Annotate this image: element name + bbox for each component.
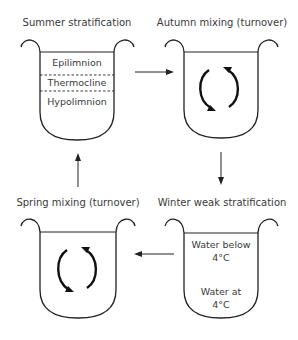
arrow-spring-to-summer <box>0 0 298 340</box>
